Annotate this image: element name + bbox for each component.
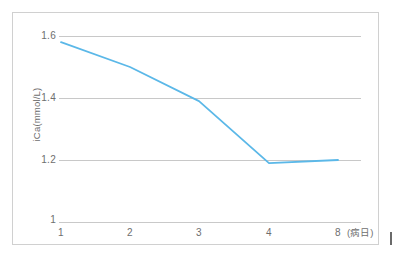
plot-area: 1.6 1.4 1.2 1 iCa(mmol/L) 1 2 3 4 8 (病日) <box>13 13 378 244</box>
data-series-svg <box>13 13 380 246</box>
chart-figure: 1.6 1.4 1.2 1 iCa(mmol/L) 1 2 3 4 8 (病日) <box>0 0 399 263</box>
page-edge-tick <box>390 232 392 245</box>
chart-frame: 1.6 1.4 1.2 1 iCa(mmol/L) 1 2 3 4 8 (病日) <box>12 12 379 245</box>
series-line-ica <box>61 42 338 163</box>
